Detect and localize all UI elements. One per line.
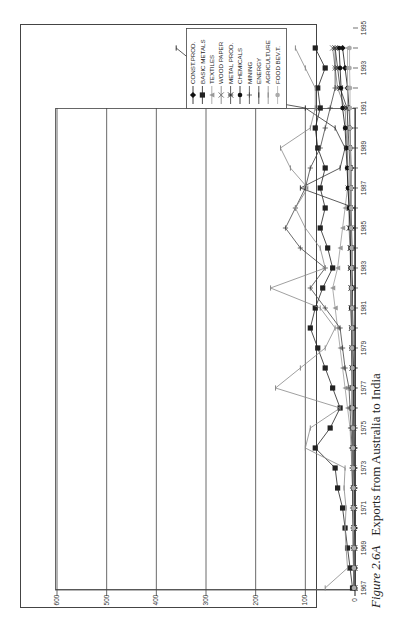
value-tick-label: 0 (351, 598, 358, 602)
figure-label: Figure 2.6A (368, 546, 383, 608)
legend-item-label: FOOD BEV.T. (274, 46, 281, 84)
legend: CONST.PROD.BASIC METALSTEXTILESWOOD PAPE… (187, 29, 287, 109)
data-series (176, 45, 357, 591)
year-tick-label: 1995 (360, 20, 367, 35)
legend-item-label: CHEMICALS (236, 48, 243, 84)
year-tick-label: 1967 (360, 580, 367, 595)
legend-item-label: METAL PROD. (227, 42, 234, 84)
figure-caption: Figure 2.6AExports from Australia to Ind… (368, 373, 384, 608)
figure-title: Exports from Australia to India (368, 373, 383, 535)
year-tick-label: 1969 (360, 540, 367, 555)
legend-item-label: WOOD PAPER (217, 41, 224, 84)
legend-item-label: TEXTILES (208, 55, 215, 84)
chart-figure: 0100200300400500600196719691971197319751… (0, 0, 398, 625)
line-chart: 0100200300400500600196719691971197319751… (0, 0, 398, 625)
year-tick-label: 1979 (360, 340, 367, 355)
outer-frame (21, 25, 317, 608)
year-tick-label: 1973 (360, 460, 367, 475)
year-tick-label: 1971 (360, 500, 367, 515)
plot-frame (56, 109, 356, 590)
value-tick-label: 500 (103, 594, 110, 605)
year-tick-label: 1977 (360, 380, 367, 395)
value-tick-label: 200 (252, 594, 259, 605)
year-tick-label: 1975 (360, 420, 367, 435)
value-tick-label: 600 (53, 594, 60, 605)
year-tick-label: 1985 (360, 220, 367, 235)
value-tick-label: 300 (202, 594, 209, 605)
legend-item-label: ENERGY (255, 58, 262, 84)
year-tick-label: 1991 (360, 100, 367, 115)
year-tick-label: 1993 (360, 60, 367, 75)
year-tick-label: 1983 (360, 260, 367, 275)
legend-item-label: CONST.PROD. (189, 41, 196, 84)
value-tick-label: 100 (301, 594, 308, 605)
legend-item-label: BASIC METALS (199, 39, 206, 84)
legend-item-label: AGRICULTURE (264, 40, 271, 84)
value-tick-label: 400 (152, 594, 159, 605)
year-tick-label: 1987 (360, 180, 367, 195)
year-tick-label: 1981 (360, 300, 367, 315)
year-tick-label: 1989 (360, 140, 367, 155)
legend-item-label: MINING (246, 61, 253, 84)
